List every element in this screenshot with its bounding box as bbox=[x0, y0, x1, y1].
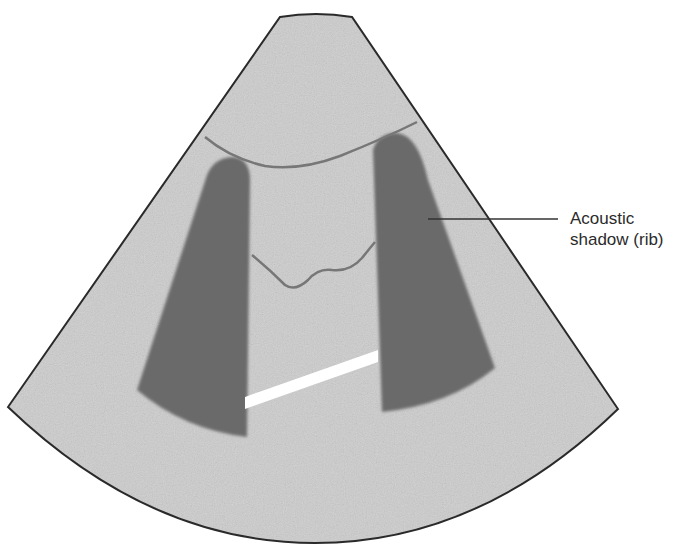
acoustic-shadow-label: Acoustic shadow (rib) bbox=[570, 208, 664, 250]
ultrasound-sector-diagram bbox=[0, 0, 693, 545]
label-line-1: Acoustic bbox=[570, 208, 664, 229]
ultrasound-sector bbox=[8, 14, 618, 543]
label-line-2: shadow (rib) bbox=[570, 229, 664, 250]
